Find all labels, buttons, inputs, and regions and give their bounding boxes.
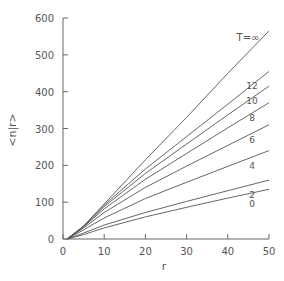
axes: 010020030040050060001020304050 <box>35 13 275 257</box>
series-label: 8 <box>249 113 255 123</box>
series-line <box>67 151 269 239</box>
x-axis-label: r <box>162 260 167 273</box>
series-label: 0 <box>249 199 255 209</box>
line-chart: 010020030040050060001020304050 T=∞121086… <box>0 0 284 281</box>
y-tick-label: 0 <box>48 234 54 245</box>
y-tick-label: 200 <box>35 160 54 171</box>
chart-canvas: 010020030040050060001020304050 T=∞121086… <box>0 0 284 281</box>
y-tick-label: 100 <box>35 197 54 208</box>
y-tick-label: 400 <box>35 87 54 98</box>
series-line <box>67 189 269 239</box>
y-tick-label: 600 <box>35 13 54 24</box>
series-line <box>67 31 269 239</box>
series-label: 12 <box>246 81 257 91</box>
series-label: T=∞ <box>236 32 260 43</box>
y-tick-label: 500 <box>35 50 54 61</box>
x-tick-label: 0 <box>60 246 66 257</box>
x-tick-label: 10 <box>98 246 111 257</box>
x-tick-label: 30 <box>180 246 193 257</box>
series-line <box>67 71 269 239</box>
series-line <box>67 103 269 239</box>
x-tick-label: 50 <box>263 246 276 257</box>
y-axis-label: <n|r> <box>6 113 19 147</box>
x-tick-label: 20 <box>139 246 152 257</box>
series-label: 10 <box>246 96 258 106</box>
y-tick-label: 300 <box>35 124 54 135</box>
x-tick-label: 40 <box>221 246 234 257</box>
series-label: 4 <box>249 161 255 171</box>
series-lines <box>67 31 269 239</box>
series-label: 6 <box>249 135 255 145</box>
